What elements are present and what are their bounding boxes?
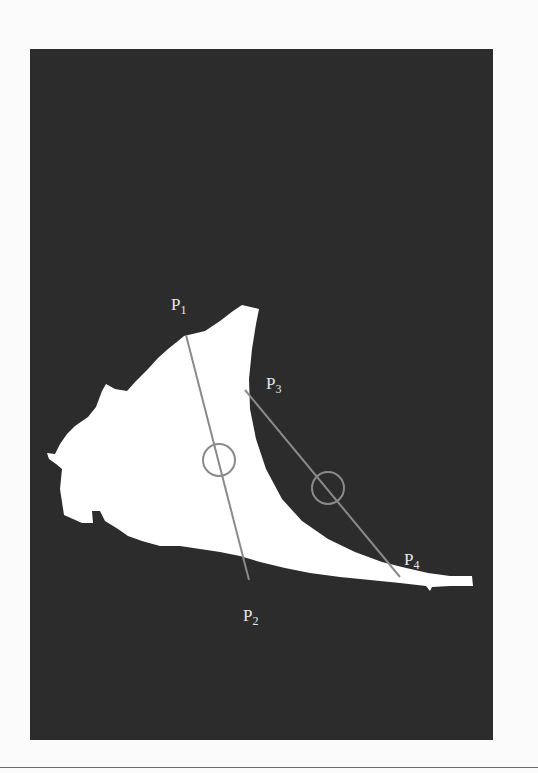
label-p1: P1 [171, 296, 186, 316]
measurement-circle-2 [312, 472, 344, 504]
figure-panel: P1 P2 P3 P4 [30, 49, 493, 740]
page-divider-rule [0, 767, 538, 768]
label-p4: P4 [404, 551, 419, 571]
segmented-region [47, 305, 473, 591]
segmentation-image [30, 49, 493, 740]
label-p3: P3 [266, 375, 281, 395]
label-p2: P2 [243, 607, 258, 627]
